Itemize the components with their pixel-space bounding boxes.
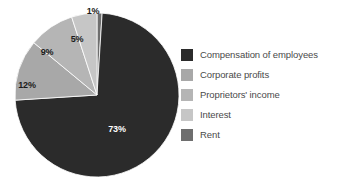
pie-slices bbox=[15, 13, 179, 177]
legend-item[interactable]: Corporate profits bbox=[181, 65, 337, 85]
legend-item-label: Corporate profits bbox=[200, 69, 269, 81]
legend-item[interactable]: Interest bbox=[181, 105, 337, 125]
chart-legend: Compensation of employeesCorporate profi… bbox=[181, 45, 337, 145]
legend-item[interactable]: Compensation of employees bbox=[181, 45, 337, 65]
pie-chart-area: 1%5%9%12%73% bbox=[0, 0, 180, 177]
pie-slice-value-label: 1% bbox=[87, 6, 100, 16]
legend-item[interactable]: Rent bbox=[181, 125, 337, 145]
pie-slice-value-label: 5% bbox=[71, 34, 84, 44]
legend-item[interactable]: Proprietors' income bbox=[181, 85, 337, 105]
legend-item-label: Rent bbox=[200, 129, 220, 141]
pie-slice-value-label: 12% bbox=[18, 80, 36, 90]
legend-color-swatch bbox=[181, 109, 193, 121]
pie-chart-figure: 1%5%9%12%73% Compensation of employeesCo… bbox=[0, 0, 337, 177]
pie-slice-value-label: 73% bbox=[108, 124, 126, 134]
legend-item-label: Compensation of employees bbox=[200, 49, 318, 61]
pie-svg: 1%5%9%12%73% bbox=[0, 0, 180, 177]
pie-slice-value-label: 9% bbox=[41, 47, 54, 57]
legend-color-swatch bbox=[181, 89, 193, 101]
legend-item-label: Interest bbox=[200, 109, 231, 121]
legend-color-swatch bbox=[181, 69, 193, 81]
legend-color-swatch bbox=[181, 49, 193, 61]
legend-item-label: Proprietors' income bbox=[200, 89, 280, 101]
legend-color-swatch bbox=[181, 129, 193, 141]
